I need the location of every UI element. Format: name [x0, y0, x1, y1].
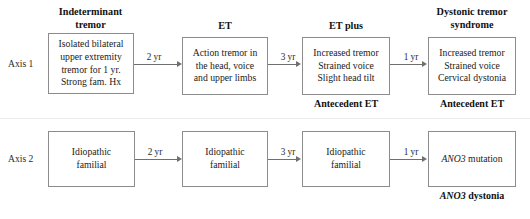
- axis-label-2: Axis 2: [8, 153, 33, 164]
- arrow-head-r1-3: [422, 61, 427, 67]
- node-body-idiopathic-familial-3: Idiopathic familial: [323, 146, 368, 171]
- node-caption-et-plus: Antecedent ET: [302, 98, 390, 110]
- row-divider: [0, 118, 530, 119]
- gene-name-ano3-caption: ANO3: [440, 190, 466, 201]
- node-et: Action tremor in the head, voice and upp…: [182, 37, 268, 95]
- arrow-line-r2-3: [390, 159, 423, 160]
- node-body-indeterminant-tremor: Isolated bilateral upper extremity tremo…: [56, 38, 127, 88]
- arrow-line-r1-1: [134, 64, 178, 65]
- arrow-line-r1-3: [390, 64, 423, 65]
- node-body-idiopathic-familial-2: Idiopathic familial: [202, 146, 247, 171]
- diagram-canvas: Axis 1 Indeterminant tremor Isolated bil…: [0, 0, 530, 219]
- node-header-dystonic-tremor-syndrome: Dystonic tremor syndrome: [424, 5, 520, 32]
- arrow-head-r1-2: [296, 61, 301, 67]
- gene-name-ano3-body: ANO3: [441, 153, 465, 164]
- node-header-et-plus: ET plus: [302, 19, 390, 32]
- node-idiopathic-familial-2: Idiopathic familial: [182, 131, 268, 187]
- node-body-idiopathic-familial-1: Idiopathic familial: [69, 146, 114, 171]
- node-indeterminant-tremor: Isolated bilateral upper extremity tremo…: [48, 33, 134, 94]
- node-body-dystonic-tremor-syndrome: Increased tremor Strained voice Cervical…: [435, 47, 509, 85]
- node-header-indeterminant-tremor: Indeterminant tremor: [43, 5, 138, 32]
- arrow-head-r2-2: [296, 156, 301, 162]
- arrow-line-r2-1: [135, 159, 178, 160]
- node-body-ano3-rest: mutation: [466, 153, 503, 164]
- node-body-et-plus: Increased tremor Strained voice Slight h…: [310, 47, 381, 85]
- arrow-label-r2-3: 1 yr: [398, 147, 424, 157]
- node-header-et: ET: [182, 19, 268, 32]
- node-caption-dystonic-tremor-syndrome: Antecedent ET: [428, 98, 516, 110]
- node-et-plus: Increased tremor Strained voice Slight h…: [302, 37, 390, 95]
- node-dystonic-tremor-syndrome: Increased tremor Strained voice Cervical…: [428, 37, 516, 95]
- node-idiopathic-familial-3: Idiopathic familial: [302, 131, 390, 187]
- axis-label-1: Axis 1: [8, 58, 33, 69]
- node-idiopathic-familial-1: Idiopathic familial: [48, 131, 135, 187]
- node-body-et: Action tremor in the head, voice and upp…: [190, 47, 261, 85]
- arrow-line-r1-2: [268, 64, 297, 65]
- node-caption-ano3-dystonia: ANO3 dystonia: [428, 190, 516, 202]
- arrow-head-r2-3: [422, 156, 427, 162]
- node-ano3-mutation: ANO3 mutation: [428, 131, 516, 187]
- arrow-line-r2-2: [268, 159, 297, 160]
- node-caption-ano3-rest: dystonia: [466, 190, 505, 201]
- arrow-label-r1-1: 2 yr: [139, 52, 169, 62]
- node-body-ano3-mutation: ANO3 mutation: [438, 153, 505, 166]
- arrow-label-r1-3: 1 yr: [398, 52, 424, 62]
- arrow-label-r2-1: 2 yr: [140, 147, 170, 157]
